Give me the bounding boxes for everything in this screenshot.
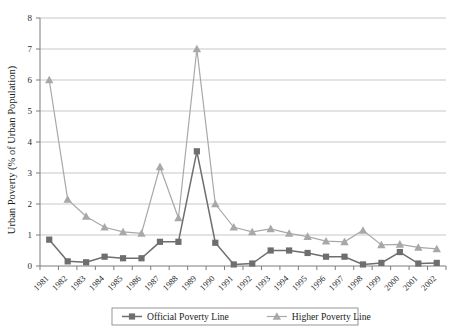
x-tick-label: 1990: [198, 273, 217, 292]
y-tick-label: 1: [28, 230, 33, 240]
data-point-marker: [63, 195, 71, 203]
data-point-marker: [138, 255, 144, 261]
x-tick-label: 1983: [68, 273, 87, 292]
y-tick-label: 4: [28, 137, 33, 147]
data-point-marker: [212, 240, 218, 246]
data-point-marker: [174, 214, 182, 222]
y-tick-label: 5: [28, 106, 33, 116]
data-point-marker: [120, 255, 126, 261]
x-tick-label: 1996: [308, 273, 328, 293]
urban-poverty-line-chart: Urban Poverty (% of Urban Population) 01…: [0, 0, 451, 334]
y-tick-label: 7: [28, 44, 33, 54]
x-tick-label: 1999: [364, 273, 383, 292]
series-path: [49, 49, 437, 249]
data-point-marker: [249, 260, 255, 266]
data-point-marker: [397, 249, 403, 255]
data-point-marker: [286, 247, 292, 253]
x-tick-label: 1993: [253, 273, 272, 292]
data-point-marker: [156, 163, 164, 171]
x-tick-label: 1992: [234, 273, 253, 292]
data-point-marker: [101, 254, 107, 260]
y-tick-label: 8: [28, 13, 33, 23]
series-layer: [45, 45, 441, 268]
data-point-marker: [100, 223, 108, 231]
data-point-marker: [193, 45, 201, 53]
x-tick-label: 2000: [382, 273, 401, 292]
data-point-marker: [360, 261, 366, 267]
data-point-marker: [266, 225, 274, 233]
x-tick-label: 1987: [142, 273, 162, 293]
y-tick-label: 0: [28, 261, 33, 271]
x-axis-ticks: 1981198219831984198519861987198819891990…: [31, 266, 446, 293]
series-higher-poverty-line: [45, 45, 441, 253]
gridlines: [40, 18, 446, 235]
data-point-marker: [304, 250, 310, 256]
x-tick-label: 1985: [105, 273, 124, 292]
data-point-marker: [45, 76, 53, 84]
chart-container: Urban Poverty (% of Urban Population) 01…: [0, 0, 451, 334]
x-tick-label: 1982: [50, 273, 69, 292]
y-tick-label: 3: [28, 168, 33, 178]
data-point-marker: [231, 261, 237, 267]
legend-label: Official Poverty Line: [147, 311, 229, 322]
data-point-marker: [434, 260, 440, 266]
x-tick-label: 1997: [327, 273, 347, 293]
x-tick-label: 2002: [419, 273, 438, 292]
series-official-poverty-line: [46, 148, 440, 267]
y-axis-title: Urban Poverty (% of Urban Population): [6, 65, 18, 234]
data-point-marker: [46, 237, 52, 243]
x-tick-label: 1986: [124, 273, 144, 293]
y-tick-label: 2: [28, 199, 33, 209]
data-point-marker: [194, 148, 200, 154]
data-point-marker: [157, 239, 163, 245]
data-point-marker: [211, 200, 219, 208]
data-point-marker: [378, 260, 384, 266]
data-point-marker: [323, 254, 329, 260]
x-tick-label: 1981: [31, 273, 50, 292]
data-point-marker: [65, 258, 71, 264]
y-tick-label: 6: [28, 75, 33, 85]
x-tick-label: 1995: [290, 273, 309, 292]
x-tick-label: 1988: [161, 273, 180, 292]
x-tick-label: 1994: [271, 273, 291, 293]
x-tick-label: 2001: [401, 273, 420, 292]
data-point-marker: [268, 247, 274, 253]
data-point-marker: [359, 226, 367, 234]
data-point-marker: [341, 254, 347, 260]
x-tick-label: 1984: [87, 273, 107, 293]
x-tick-label: 1989: [179, 273, 198, 292]
y-axis-ticks: 012345678: [28, 13, 41, 271]
y-axis-title-text: Urban Poverty (% of Urban Population): [6, 65, 18, 234]
legend-label: Higher Poverty Line: [292, 311, 371, 322]
data-point-marker: [175, 239, 181, 245]
data-point-marker: [129, 313, 135, 319]
x-tick-label: 1991: [216, 273, 235, 292]
x-tick-label: 1998: [345, 273, 364, 292]
chart-legend: Official Poverty LineHigher Poverty Line: [112, 308, 371, 325]
data-point-marker: [83, 259, 89, 265]
data-point-marker: [415, 260, 421, 266]
